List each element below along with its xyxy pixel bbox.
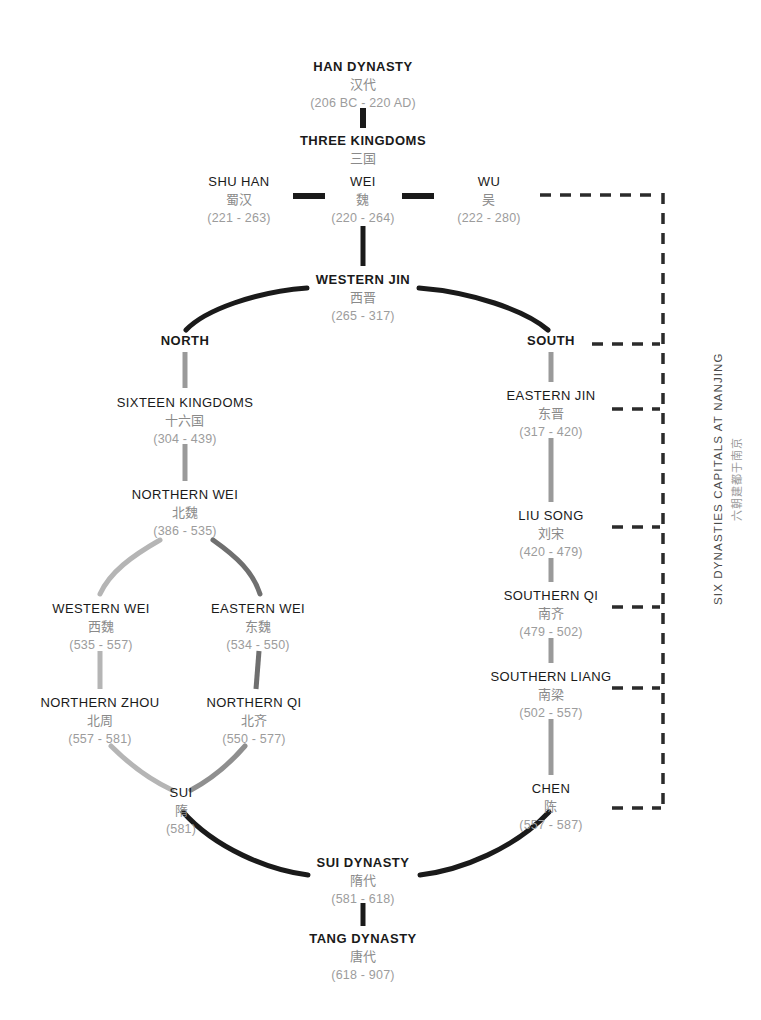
node-shu-han: SHU HAN蜀汉(221 - 263) bbox=[207, 175, 270, 225]
node-north-name-en: NORTH bbox=[161, 334, 210, 347]
node-tang-dynasty-name-en: TANG DYNASTY bbox=[309, 932, 417, 945]
node-three-kingdoms-name-zh: 三国 bbox=[300, 152, 426, 165]
node-western-jin-name-zh: 西晋 bbox=[316, 291, 410, 304]
node-southern-qi-name-en: SOUTHERN QI bbox=[504, 589, 599, 602]
node-northern-zhou-name-en: NORTHERN ZHOU bbox=[40, 696, 159, 709]
node-northern-zhou-name-zh: 北周 bbox=[40, 714, 159, 727]
node-northern-wei-name-zh: 北魏 bbox=[132, 506, 238, 519]
node-chen-name-en: CHEN bbox=[519, 782, 582, 795]
node-western-jin-name-en: WESTERN JIN bbox=[316, 273, 410, 286]
node-wei: WEI魏(220 - 264) bbox=[331, 175, 394, 225]
node-sui-years: (581) bbox=[166, 823, 196, 836]
node-sui-dynasty-years: (581 - 618) bbox=[317, 893, 410, 906]
node-chen-years: (557 - 587) bbox=[519, 819, 582, 832]
node-wei-name-zh: 魏 bbox=[331, 193, 394, 206]
node-north: NORTH bbox=[161, 334, 210, 347]
connector-western-jin-to-south bbox=[419, 288, 548, 330]
node-chen: CHEN陈(557 - 587) bbox=[519, 782, 582, 832]
node-south-name-en: SOUTH bbox=[527, 334, 575, 347]
node-northern-qi-years: (550 - 577) bbox=[206, 733, 301, 746]
connector-northern-wei-to-western-wei bbox=[100, 540, 160, 594]
node-chen-name-zh: 陈 bbox=[519, 800, 582, 813]
node-northern-qi-name-zh: 北齐 bbox=[206, 714, 301, 727]
node-western-wei-years: (535 - 557) bbox=[52, 639, 150, 652]
node-three-kingdoms-name-en: THREE KINGDOMS bbox=[300, 134, 426, 147]
node-wu-name-zh: 吴 bbox=[457, 193, 520, 206]
node-southern-qi-name-zh: 南齐 bbox=[504, 607, 599, 620]
six-dynasties-label-en: SIX DYNASTIES CAPITALS AT NANJING bbox=[712, 352, 724, 605]
node-southern-qi-years: (479 - 502) bbox=[504, 626, 599, 639]
node-sui: SUI隋(581) bbox=[166, 786, 196, 836]
node-han: HAN DYNASTY汉代(206 BC - 220 AD) bbox=[310, 60, 416, 110]
node-wu-name-en: WU bbox=[457, 175, 520, 188]
node-sixteen-name-en: SIXTEEN KINGDOMS bbox=[117, 396, 253, 409]
connector-eastern-wei-to-northern-qi bbox=[256, 651, 259, 689]
node-sui-dynasty-name-zh: 隋代 bbox=[317, 874, 410, 887]
node-northern-qi: NORTHERN QI北齐(550 - 577) bbox=[206, 696, 301, 746]
node-liu-song-name-en: LIU SONG bbox=[518, 509, 583, 522]
connector-northern-zhou-to-sui bbox=[111, 746, 172, 790]
node-western-jin: WESTERN JIN西晋(265 - 317) bbox=[316, 273, 410, 323]
node-sui-dynasty: SUI DYNASTY隋代(581 - 618) bbox=[317, 856, 410, 906]
connector-northern-qi-to-sui bbox=[191, 746, 245, 790]
node-sui-name-zh: 隋 bbox=[166, 804, 196, 817]
node-eastern-wei-name-zh: 东魏 bbox=[211, 620, 305, 633]
node-liu-song-years: (420 - 479) bbox=[518, 546, 583, 559]
node-northern-wei: NORTHERN WEI北魏(386 - 535) bbox=[132, 488, 238, 538]
node-eastern-jin-years: (317 - 420) bbox=[507, 426, 596, 439]
node-eastern-wei-name-en: EASTERN WEI bbox=[211, 602, 305, 615]
node-south: SOUTH bbox=[527, 334, 575, 347]
node-shu-han-years: (221 - 263) bbox=[207, 212, 270, 225]
node-tang-dynasty: TANG DYNASTY唐代(618 - 907) bbox=[309, 932, 417, 982]
node-sixteen-years: (304 - 439) bbox=[117, 433, 253, 446]
node-wu-years: (222 - 280) bbox=[457, 212, 520, 225]
node-southern-liang-years: (502 - 557) bbox=[490, 707, 611, 720]
node-northern-zhou: NORTHERN ZHOU北周(557 - 581) bbox=[40, 696, 159, 746]
node-han-years: (206 BC - 220 AD) bbox=[310, 97, 416, 110]
node-sixteen-name-zh: 十六国 bbox=[117, 414, 253, 427]
node-han-name-en: HAN DYNASTY bbox=[310, 60, 416, 73]
node-southern-liang: SOUTHERN LIANG南梁(502 - 557) bbox=[490, 670, 611, 720]
node-western-wei: WESTERN WEI西魏(535 - 557) bbox=[52, 602, 150, 652]
node-western-wei-name-zh: 西魏 bbox=[52, 620, 150, 633]
six-dynasties-label-zh: 六朝建都于南京 bbox=[728, 352, 744, 605]
node-eastern-jin-name-en: EASTERN JIN bbox=[507, 389, 596, 402]
node-three-kingdoms: THREE KINGDOMS三国 bbox=[300, 134, 426, 165]
node-wu: WU吴(222 - 280) bbox=[457, 175, 520, 225]
node-northern-qi-name-en: NORTHERN QI bbox=[206, 696, 301, 709]
node-eastern-wei: EASTERN WEI东魏(534 - 550) bbox=[211, 602, 305, 652]
node-liu-song: LIU SONG刘宋(420 - 479) bbox=[518, 509, 583, 559]
connector-northern-wei-to-eastern-wei bbox=[213, 540, 260, 594]
node-northern-wei-years: (386 - 535) bbox=[132, 525, 238, 538]
node-southern-qi: SOUTHERN QI南齐(479 - 502) bbox=[504, 589, 599, 639]
node-northern-wei-name-en: NORTHERN WEI bbox=[132, 488, 238, 501]
node-southern-liang-name-zh: 南梁 bbox=[490, 688, 611, 701]
node-liu-song-name-zh: 刘宋 bbox=[518, 527, 583, 540]
dynasty-timeline-diagram: HAN DYNASTY汉代(206 BC - 220 AD)THREE KING… bbox=[0, 0, 761, 1020]
node-tang-dynasty-name-zh: 唐代 bbox=[309, 950, 417, 963]
node-shu-han-name-zh: 蜀汉 bbox=[207, 193, 270, 206]
connector-western-jin-to-north bbox=[186, 288, 307, 330]
node-tang-dynasty-years: (618 - 907) bbox=[309, 969, 417, 982]
six-dynasties-nanjing-label: SIX DYNASTIES CAPITALS AT NANJING 六朝建都于南… bbox=[712, 352, 744, 605]
node-sui-dynasty-name-en: SUI DYNASTY bbox=[317, 856, 410, 869]
node-western-wei-name-en: WESTERN WEI bbox=[52, 602, 150, 615]
node-eastern-jin: EASTERN JIN东晋(317 - 420) bbox=[507, 389, 596, 439]
node-eastern-jin-name-zh: 东晋 bbox=[507, 407, 596, 420]
node-wei-years: (220 - 264) bbox=[331, 212, 394, 225]
node-han-name-zh: 汉代 bbox=[310, 78, 416, 91]
connector-sui-to-sui-dynasty bbox=[183, 812, 308, 875]
node-sui-name-en: SUI bbox=[166, 786, 196, 799]
node-shu-han-name-en: SHU HAN bbox=[207, 175, 270, 188]
node-western-jin-years: (265 - 317) bbox=[316, 310, 410, 323]
node-southern-liang-name-en: SOUTHERN LIANG bbox=[490, 670, 611, 683]
node-wei-name-en: WEI bbox=[331, 175, 394, 188]
node-sixteen: SIXTEEN KINGDOMS十六国(304 - 439) bbox=[117, 396, 253, 446]
node-eastern-wei-years: (534 - 550) bbox=[211, 639, 305, 652]
node-northern-zhou-years: (557 - 581) bbox=[40, 733, 159, 746]
